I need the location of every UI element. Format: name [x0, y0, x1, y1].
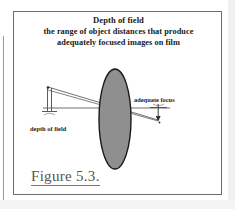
figure-page: Depth of field the range of object dista… [0, 0, 235, 209]
object-point-marker [47, 86, 50, 89]
image-point-marker [159, 122, 161, 124]
figure-caption: Figure 5.3. [31, 168, 100, 186]
lens-ellipse [99, 69, 131, 169]
page-edge-artifact-bottom [0, 200, 235, 209]
label-depth-of-field: depth of field [30, 125, 66, 132]
page-edge-artifact-left [3, 36, 4, 209]
label-adequate-focus: adequate focus [134, 96, 175, 103]
figure-frame: Depth of field the range of object dista… [13, 11, 222, 195]
page-edge-artifact-right [228, 0, 235, 209]
depth-of-field-brace [44, 113, 55, 115]
